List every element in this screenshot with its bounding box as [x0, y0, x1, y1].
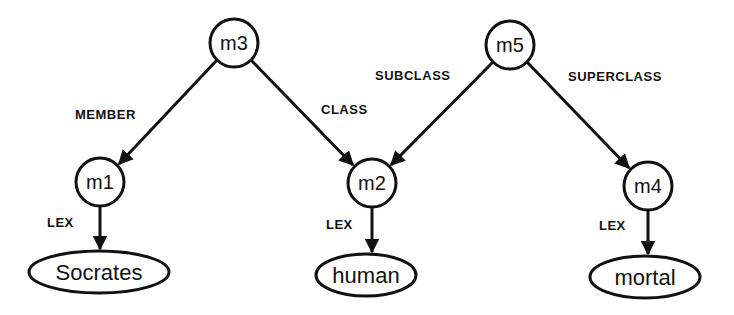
semantic-network-diagram: MEMBER CLASS SUBCLASS SUPERCLASS LEX LEX…	[0, 0, 734, 315]
node-m3: m3	[210, 19, 258, 67]
node-label: m2	[358, 172, 386, 194]
leaf-socrates: Socrates	[29, 251, 169, 293]
leaf-label: mortal	[614, 265, 675, 290]
edge-label-member: MEMBER	[75, 107, 136, 122]
leaf-human: human	[316, 254, 416, 296]
node-m5: m5	[486, 21, 534, 69]
edge-label-superclass: SUPERCLASS	[568, 69, 662, 84]
node-label: m4	[634, 175, 662, 197]
leaf-label: human	[332, 263, 399, 288]
node-label: m1	[86, 171, 114, 193]
edge-label-lex-3: LEX	[599, 218, 626, 233]
edge-label-lex-1: LEX	[47, 215, 74, 230]
node-m1: m1	[76, 158, 124, 206]
edge-label-class: CLASS	[321, 102, 368, 117]
edge-label-lex-2: LEX	[326, 217, 353, 232]
node-label: m5	[496, 34, 524, 56]
node-label: m3	[220, 32, 248, 54]
leaf-label: Socrates	[56, 260, 143, 285]
edge-label-subclass: SUBCLASS	[375, 68, 451, 83]
node-m2: m2	[348, 159, 396, 207]
node-m4: m4	[624, 162, 672, 210]
leaf-mortal: mortal	[590, 256, 700, 298]
